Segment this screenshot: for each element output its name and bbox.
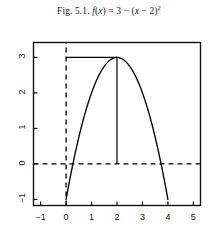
x-tick-label-5: 5 <box>183 212 203 222</box>
y-tick-label-3: 3 <box>17 49 27 63</box>
y-tick-label-0: 0 <box>17 156 27 170</box>
figure-container: Fig. 5.1. f(x) = 3 − (x − 2)2 −10123 −10… <box>0 0 218 242</box>
y-tick-label-−1: −1 <box>17 191 27 205</box>
x-tick-label-−1: −1 <box>31 212 51 222</box>
x-tick-label-0: 0 <box>56 212 76 222</box>
vertex-guides-layer <box>66 57 117 164</box>
x-tick-label-4: 4 <box>158 212 178 222</box>
y-tick-label-1: 1 <box>17 120 27 134</box>
axis-ticks-layer <box>34 57 194 205</box>
x-tick-label-2: 2 <box>107 212 127 222</box>
y-tick-label-2: 2 <box>17 85 27 99</box>
x-tick-label-3: 3 <box>132 212 152 222</box>
x-tick-label-1: 1 <box>82 212 102 222</box>
parabola-plot <box>0 0 218 242</box>
